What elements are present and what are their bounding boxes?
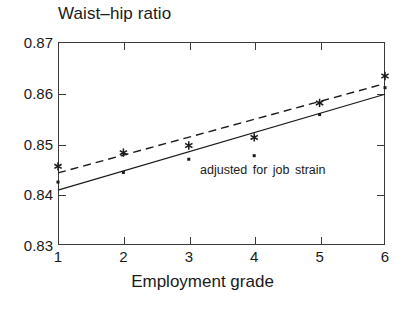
page-title: Waist–hip ratio [58,4,171,24]
plot-frame [58,42,385,245]
x-axis-label: Employment grade [0,272,405,292]
x-axis-tick [124,43,125,50]
y-axis-tick [59,94,66,95]
chart-figure: Waist–hip ratio Employment grade adjuste… [0,0,405,318]
y-axis-tick-label: 0.83 [24,237,53,254]
x-axis-tick-label: 3 [185,248,193,265]
x-axis-tick-label: 4 [250,248,258,265]
series-annotation-adjusted: adjusted for job strain [200,163,326,177]
x-axis-tick [321,237,322,244]
x-axis-tick-label: 5 [315,248,323,265]
x-axis-tick-label: 6 [381,248,389,265]
y-axis-tick-label: 0.87 [24,34,53,51]
x-axis-tick-label: 1 [54,248,62,265]
y-axis-tick [377,195,384,196]
y-axis-tick [377,94,384,95]
x-axis-tick-label: 2 [119,248,127,265]
x-axis-tick [321,43,322,50]
y-axis-tick [377,145,384,146]
y-axis-tick [59,145,66,146]
x-axis-tick [190,237,191,244]
x-axis-tick [255,237,256,244]
x-axis-tick [124,237,125,244]
y-axis-tick-label: 0.86 [24,84,53,101]
y-axis-tick-label: 0.85 [24,135,53,152]
y-axis-tick-label: 0.84 [24,186,53,203]
x-axis-tick [255,43,256,50]
y-axis-tick [59,195,66,196]
x-axis-tick [190,43,191,50]
